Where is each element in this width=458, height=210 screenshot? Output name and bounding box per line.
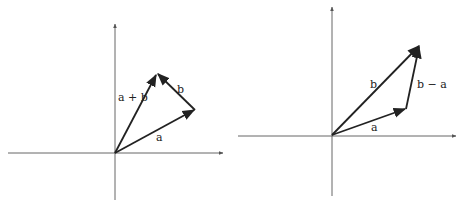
label-b: b [370, 78, 377, 91]
label-b: b [177, 83, 184, 96]
subtraction-diagram: a b b − a [238, 7, 456, 196]
label-a: a [371, 121, 378, 134]
addition-diagram: a b a + b [8, 24, 223, 200]
label-a-plus-b: a + b [118, 91, 148, 104]
vector-diagrams: a b a + b a b b − a [0, 0, 458, 210]
label-a: a [156, 131, 163, 144]
vector-a [332, 109, 405, 135]
label-b-minus-a: b − a [417, 78, 447, 91]
